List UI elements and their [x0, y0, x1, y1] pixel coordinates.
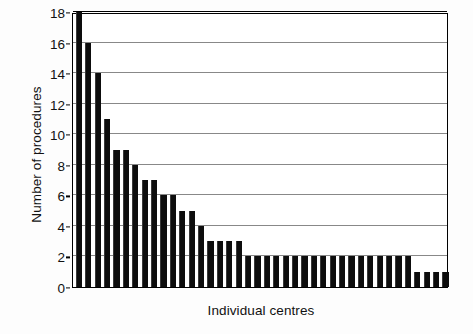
y-axis-tick-label: 18: [50, 6, 65, 21]
bar: [301, 256, 307, 287]
gridline: [73, 11, 447, 12]
y-axis-tick-mark: [66, 12, 70, 13]
bar: [198, 226, 204, 287]
bar: [142, 180, 148, 287]
y-axis-tick-mark: [66, 257, 70, 258]
bar: [179, 211, 185, 287]
y-axis-tick-mark: [66, 165, 70, 166]
bar: [358, 256, 364, 287]
bar: [207, 241, 213, 287]
bar: [292, 256, 298, 287]
bar: [348, 256, 354, 287]
bar: [320, 256, 326, 287]
y-axis-tick-mark: [66, 196, 70, 197]
plot-area: [72, 13, 448, 288]
y-axis-tick-label: 8: [57, 158, 65, 173]
y-axis-tick-label: 16: [50, 36, 65, 51]
y-axis-tick-mark: [66, 135, 70, 136]
y-axis-tick-mark: [66, 104, 70, 105]
bar: [123, 150, 129, 288]
y-axis-tick-labels: 024681012141618: [0, 13, 70, 288]
bar: [424, 272, 430, 287]
bar: [245, 256, 251, 287]
bar: [254, 256, 260, 287]
bar: [85, 43, 91, 287]
y-axis-tick-mark: [66, 226, 70, 227]
y-axis-tick-mark: [66, 43, 70, 44]
bar: [395, 256, 401, 287]
y-axis-tick-label: 2: [57, 250, 65, 265]
bar: [217, 241, 223, 287]
y-axis-tick-mark: [66, 287, 70, 288]
bar: [283, 256, 289, 287]
y-axis-tick-label: 14: [50, 67, 65, 82]
bar-series: [73, 14, 447, 287]
y-axis-tick-label: 4: [57, 219, 65, 234]
bar: [236, 241, 242, 287]
bar: [264, 256, 270, 287]
y-axis-tick-label: 0: [57, 281, 65, 296]
bar: [405, 256, 411, 287]
bar: [273, 256, 279, 287]
bar: [339, 256, 345, 287]
bar: [151, 180, 157, 287]
bar: [442, 272, 448, 287]
bar: [170, 195, 176, 287]
bar: [95, 73, 101, 287]
bar: [104, 119, 110, 287]
bar: [433, 272, 439, 287]
x-axis-title: Individual centres: [72, 303, 450, 318]
bar: [377, 256, 383, 287]
bar: [76, 12, 82, 287]
y-axis-tick-label: 12: [50, 97, 65, 112]
y-axis-tick-mark: [66, 74, 70, 75]
bar: [160, 195, 166, 287]
y-axis-tick-label: 6: [57, 189, 65, 204]
bar: [367, 256, 373, 287]
bar: [226, 241, 232, 287]
bar: [311, 256, 317, 287]
y-axis-tick-label: 10: [50, 128, 65, 143]
bar: [414, 272, 420, 287]
bar: [330, 256, 336, 287]
bar-chart-figure: Number of procedures 024681012141618 Ind…: [0, 0, 473, 334]
bar: [189, 211, 195, 287]
bar: [113, 150, 119, 288]
bar: [132, 165, 138, 287]
bar: [386, 256, 392, 287]
